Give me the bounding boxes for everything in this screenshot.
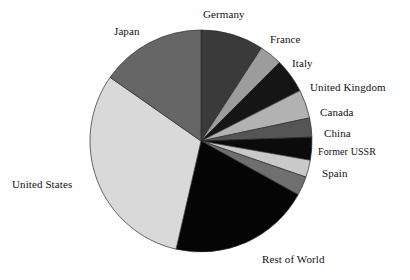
- pie-label-united-states: United States: [12, 178, 72, 190]
- pie-label-rest-of-world: Rest of World: [262, 253, 325, 265]
- pie-label-former-ussr: Former USSR: [318, 146, 376, 158]
- pie-label-italy: Italy: [292, 57, 313, 69]
- pie-label-spain: Spain: [322, 167, 348, 179]
- pie-label-china: China: [324, 127, 351, 139]
- pie-chart-canvas: [0, 0, 410, 280]
- pie-label-germany: Germany: [203, 8, 245, 20]
- pie-label-united-kingdom: United Kingdom: [310, 81, 386, 93]
- pie-label-canada: Canada: [320, 106, 354, 118]
- pie-label-france: France: [270, 33, 301, 45]
- pie-chart-figure: Germany France Italy United Kingdom Cana…: [0, 0, 410, 280]
- pie-slice-group: [90, 30, 312, 252]
- pie-label-japan: Japan: [114, 25, 140, 37]
